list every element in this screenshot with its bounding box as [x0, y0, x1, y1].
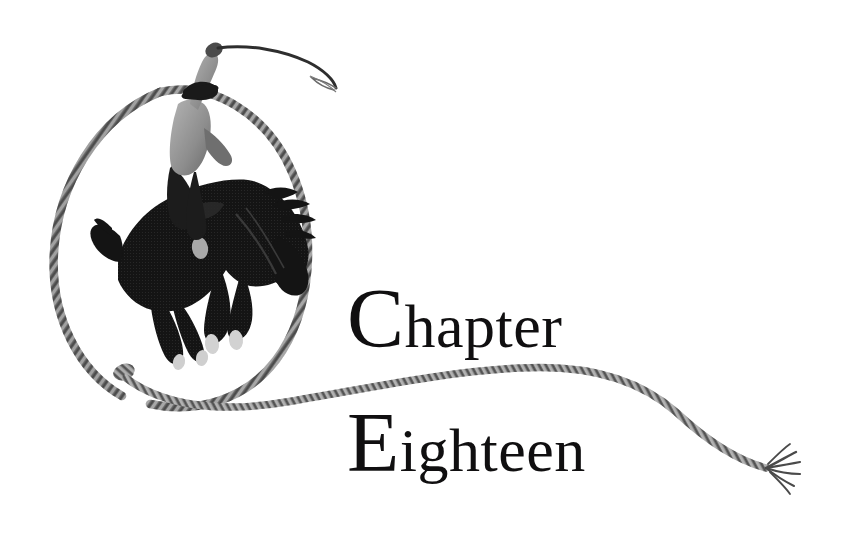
raised-whip — [218, 47, 336, 92]
frayed-rope-end — [766, 444, 800, 494]
rope-tail — [111, 361, 800, 494]
chapter-opener-page: Chapter Eighteen — [0, 0, 863, 533]
chapter-illustration — [0, 0, 863, 533]
